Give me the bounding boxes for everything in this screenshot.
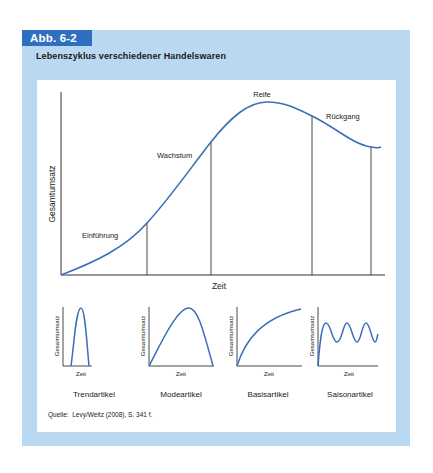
saison-curve — [318, 323, 378, 366]
lifecycle-curve — [61, 102, 381, 275]
small-y-label: Gesamtumsatz — [54, 316, 60, 356]
small-chart-trendartikel: Gesamtumsatz Zeit Trendartikel — [54, 307, 115, 399]
small-chart-title: Basisartikel — [248, 390, 289, 399]
small-x-label: Zeit — [264, 371, 274, 377]
main-lifecycle-chart: Einführung Wachstum Reife Rückgang Zeit … — [47, 90, 385, 291]
lifecycle-diagram: Einführung Wachstum Reife Rückgang Zeit … — [0, 0, 433, 473]
trend-curve — [71, 308, 89, 366]
main-y-axis-label: Gesamtumsatz — [47, 165, 57, 222]
small-y-label: Gesamtumsatz — [228, 316, 234, 356]
small-y-label: Gesamtumsatz — [140, 316, 146, 356]
main-x-axis-label: Zeit — [212, 281, 227, 291]
phase-label-reife: Reife — [253, 90, 271, 99]
mode-curve — [149, 308, 213, 366]
phase-label-einfuehrung: Einführung — [82, 231, 118, 240]
small-chart-basisartikel: Gesamtumsatz Zeit Basisartikel — [228, 307, 302, 399]
basis-curve — [237, 309, 301, 366]
phase-label-wachstum: Wachstum — [157, 151, 192, 160]
small-chart-modeartikel: Gesamtumsatz Zeit Modeartikel — [140, 307, 214, 399]
small-chart-title: Modeartikel — [160, 390, 202, 399]
source-citation: Quelle: Levy/Weitz (2008), S. 341 f. — [48, 411, 152, 419]
small-x-label: Zeit — [176, 371, 186, 377]
phase-label-rueckgang: Rückgang — [326, 112, 360, 121]
small-y-label: Gesamtumsatz — [309, 316, 315, 356]
small-chart-saisonartikel: Gesamtumsatz Zeit Saisonartikel — [309, 307, 378, 399]
small-chart-title: Saisonartikel — [327, 390, 373, 399]
small-chart-title: Trendartikel — [73, 390, 115, 399]
small-x-label: Zeit — [76, 371, 86, 377]
small-x-label: Zeit — [344, 371, 354, 377]
